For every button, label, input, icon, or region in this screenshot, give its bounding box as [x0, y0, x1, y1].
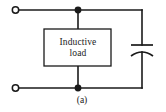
circuit-figure: Inductive load (a) [0, 0, 166, 112]
inductive-load-block [44, 29, 111, 66]
bottom-junction-dot-icon [75, 85, 82, 92]
top-left-terminal-icon [12, 7, 18, 13]
top-junction-dot-icon [75, 7, 82, 14]
figure-caption: (a) [0, 95, 164, 105]
bottom-left-terminal-icon [12, 85, 18, 91]
